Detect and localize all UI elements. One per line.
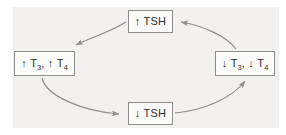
edge-bottom-to-right xyxy=(175,81,245,113)
node-right-label: ↓ T3, ↓ T4 xyxy=(222,58,269,69)
node-top-label: ↑ TSH xyxy=(135,16,166,27)
node-bottom-label: ↓ TSH xyxy=(135,108,166,119)
node-tsh-increased[interactable]: ↑ TSH xyxy=(128,10,173,33)
edge-top-to-left xyxy=(76,22,126,45)
node-left-sub-2: 4 xyxy=(64,63,68,72)
node-tsh-decreased[interactable]: ↓ TSH xyxy=(128,102,173,125)
node-right-sub-2: 4 xyxy=(264,63,268,72)
edge-right-to-top xyxy=(181,22,236,49)
node-right-analyte-1: T xyxy=(231,57,238,69)
node-left-label: ↑ T3, ↑ T4 xyxy=(21,58,68,69)
edge-left-to-bottom xyxy=(42,78,119,114)
node-t3-t4-increased[interactable]: ↑ T3, ↑ T4 xyxy=(14,51,75,76)
node-right-sub-1: 3 xyxy=(238,63,242,72)
node-t3-t4-decreased[interactable]: ↓ T3, ↓ T4 xyxy=(215,51,275,76)
node-left-sub-1: 3 xyxy=(37,63,41,72)
diagram-canvas: ↑ TSH ↑ T3, ↑ T4 ↓ T3, ↓ T4 ↓ TSH xyxy=(0,0,286,135)
node-left-analyte-2: T xyxy=(57,57,64,69)
